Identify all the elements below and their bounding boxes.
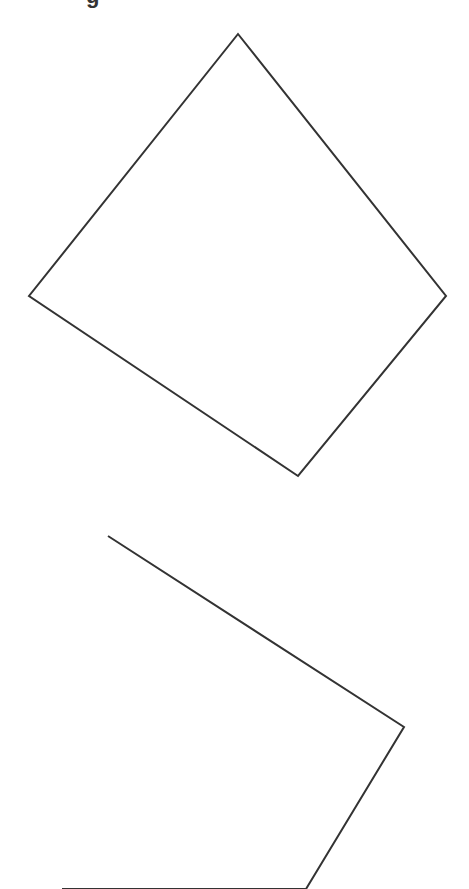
quadrilateral-top [29, 34, 446, 476]
diagram-canvas [0, 0, 469, 889]
quadrilateral-bottom [62, 536, 404, 889]
